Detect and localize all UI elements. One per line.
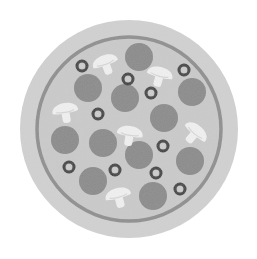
pepperoni-slice	[79, 167, 107, 195]
olive-slice	[93, 109, 103, 119]
olive-slice	[158, 141, 168, 151]
pizza-icon	[0, 0, 257, 259]
pepperoni-slice	[111, 84, 139, 112]
pepperoni-slice	[74, 74, 102, 102]
pepperoni-slice	[125, 43, 153, 71]
olive-slice	[146, 88, 156, 98]
pepperoni-slice	[51, 126, 79, 154]
pepperoni-slice	[139, 182, 167, 210]
pepperoni-slice	[150, 104, 178, 132]
olive-slice	[175, 184, 185, 194]
olive-slice	[64, 162, 74, 172]
pepperoni-slice	[89, 129, 117, 157]
olive-slice	[123, 74, 133, 84]
pepperoni-slice	[176, 147, 204, 175]
olive-slice	[110, 165, 120, 175]
pepperoni-slice	[178, 78, 206, 106]
olive-slice	[179, 65, 189, 75]
olive-slice	[151, 168, 161, 178]
olive-slice	[77, 61, 87, 71]
